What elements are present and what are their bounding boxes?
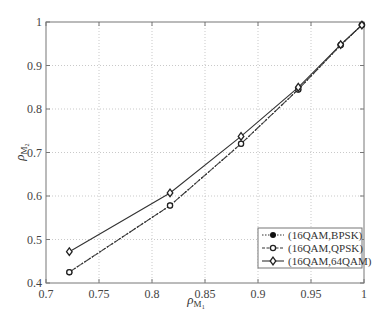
legend-label: (16QAM,QPSK) — [288, 242, 363, 255]
y-tick-label: 0.7 — [27, 146, 42, 160]
legend: (16QAM,BPSK)(16QAM,QPSK)(16QAM,64QAM) — [258, 228, 372, 268]
y-tick-label: 1 — [36, 15, 42, 29]
line-chart: 0.70.750.80.850.90.9510.40.50.60.70.80.9… — [0, 0, 382, 324]
y-tick-label: 0.9 — [27, 59, 42, 73]
y-tick-label: 0.4 — [27, 276, 42, 290]
x-tick-label: 0.8 — [145, 287, 160, 301]
marker-diamond — [238, 133, 244, 141]
series-line — [67, 21, 365, 255]
marker-open-circle — [167, 203, 172, 208]
marker-diamond — [167, 189, 173, 197]
y-tick-label: 0.5 — [27, 233, 42, 247]
x-tick-label: 1 — [361, 287, 367, 301]
legend-label: (16QAM,64QAM) — [288, 255, 372, 268]
marker-open-circle — [67, 270, 72, 275]
x-tick-label: 0.75 — [89, 287, 110, 301]
x-tick-label: 0.9 — [251, 287, 266, 301]
marker-diamond — [67, 248, 73, 256]
y-tick-label: 0.8 — [27, 102, 42, 116]
x-tick-label: 0.95 — [301, 287, 322, 301]
marker-open-circle — [238, 141, 243, 146]
legend-label: (16QAM,BPSK) — [288, 229, 363, 242]
marker-open-circle — [270, 245, 275, 250]
marker-filled-circle — [270, 232, 276, 238]
y-tick-label: 0.6 — [27, 189, 42, 203]
